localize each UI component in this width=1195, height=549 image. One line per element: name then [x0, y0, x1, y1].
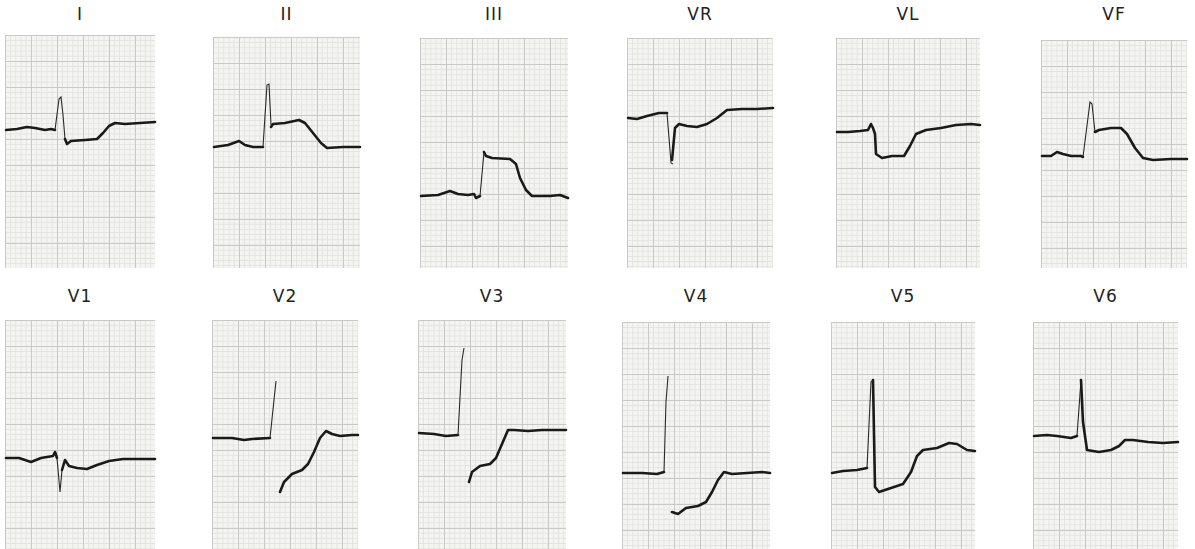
lead-V3: V3 — [418, 280, 566, 549]
ecg-strip — [1041, 40, 1187, 268]
lead-V5: V5 — [831, 280, 975, 549]
lead-label: V6 — [1033, 286, 1178, 306]
ecg-strip — [831, 322, 975, 549]
ecg-trace — [1033, 322, 1178, 549]
lead-V6: V6 — [1033, 280, 1178, 549]
lead-label: VF — [1041, 4, 1187, 24]
lead-label: VL — [836, 4, 980, 24]
lead-V4: V4 — [622, 280, 770, 549]
lead-label: V3 — [418, 286, 566, 306]
ecg-trace — [836, 38, 980, 268]
ecg-trace — [5, 320, 155, 549]
ecg-strip — [836, 38, 980, 268]
lead-label: III — [420, 4, 568, 24]
lead-label: V1 — [5, 286, 155, 306]
lead-label: V4 — [622, 286, 770, 306]
lead-label: II — [213, 4, 360, 24]
ecg-trace — [213, 37, 360, 268]
ecg-trace — [1041, 40, 1187, 268]
ecg-trace — [831, 322, 975, 549]
ecg-trace — [622, 322, 770, 549]
lead-label: V5 — [831, 286, 975, 306]
ecg-trace — [418, 320, 566, 549]
lead-VR: VR — [627, 0, 773, 268]
lead-label: I — [5, 4, 155, 24]
ecg-trace — [5, 35, 155, 268]
lead-V2: V2 — [212, 280, 358, 549]
lead-I: I — [5, 0, 155, 268]
ecg-trace — [627, 38, 773, 268]
ecg-strip — [5, 35, 155, 268]
lead-VF: VF — [1041, 0, 1187, 268]
lead-V1: V1 — [5, 280, 155, 549]
ecg-strip — [212, 320, 358, 549]
ecg-strip — [622, 322, 770, 549]
ecg-strip — [5, 320, 155, 549]
lead-VL: VL — [836, 0, 980, 268]
lead-label: V2 — [212, 286, 358, 306]
ecg-strip — [213, 37, 360, 268]
lead-label: VR — [627, 4, 773, 24]
lead-II: II — [213, 0, 360, 268]
ecg-strip — [420, 38, 568, 268]
ecg-trace — [420, 38, 568, 268]
ecg-trace — [212, 320, 358, 549]
ecg-strip — [1033, 322, 1178, 549]
ecg-strip — [418, 320, 566, 549]
lead-III: III — [420, 0, 568, 268]
ecg-strip — [627, 38, 773, 268]
